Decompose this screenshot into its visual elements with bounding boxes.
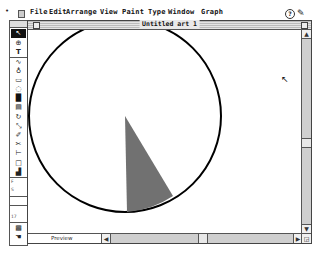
freehand-icon[interactable]: ∿ (11, 58, 26, 67)
menu-bar: • File Edit Arrange View Paint Type Wind… (0, 6, 315, 20)
document-window: Untitled art 1 ▲ ▼ Preview ◀ ▶ ◲ (27, 20, 312, 244)
horizontal-scrollbar[interactable]: ◀ ▶ (101, 234, 302, 243)
graph-tool-icon[interactable]: ▤ (11, 103, 26, 112)
toolbox: ↖ ⊕ T ∿ ♁ ▭ ◌ █ ▤ ↻ ⤡ ✐ ✂ ⊢ □ ▟ F S 17 ▩… (9, 20, 28, 246)
grow-box-icon[interactable]: ◲ (301, 233, 311, 243)
rotate-icon[interactable]: ↻ (11, 113, 26, 122)
menu-type[interactable]: Type (148, 8, 166, 16)
scale-icon[interactable]: ⤡ (11, 122, 26, 131)
selection-arrow-icon[interactable]: ↖ (11, 29, 26, 38)
mouse-cursor-icon: ↖ (281, 74, 289, 84)
zoom-box-icon[interactable] (301, 22, 308, 29)
window-title: Untitled art 1 (139, 20, 200, 29)
scroll-up-arrow-icon[interactable]: ▲ (302, 30, 311, 39)
chart-icon[interactable]: ▟ (11, 168, 26, 177)
hand-icon[interactable]: ☚ (11, 233, 26, 242)
toolbox-divider (10, 205, 27, 206)
oval-tool-icon[interactable]: ◌ (11, 85, 26, 94)
menu-edit[interactable]: Edit (49, 8, 67, 16)
bottom-bar: Preview ◀ ▶ (28, 233, 311, 243)
menu-file[interactable]: File (30, 8, 48, 16)
toolbox-divider (10, 177, 27, 178)
artboard-canvas[interactable] (28, 30, 301, 233)
close-box-icon[interactable] (33, 22, 40, 29)
menu-paint[interactable]: Paint (122, 8, 144, 16)
rectangle-tool-icon[interactable]: ▭ (11, 76, 26, 85)
scroll-left-arrow-icon[interactable]: ◀ (102, 234, 111, 243)
zoom-icon[interactable]: ⊕ (11, 39, 26, 48)
menu-view[interactable]: View (100, 8, 118, 16)
size-indicator: 17 (11, 214, 17, 219)
page-icon[interactable]: □ (11, 159, 26, 168)
menu-window[interactable]: Window (168, 8, 195, 16)
scroll-down-arrow-icon[interactable]: ▼ (302, 224, 311, 233)
pie-chart[interactable] (28, 30, 301, 233)
application-menu-icon[interactable]: ✎ (297, 8, 305, 18)
toolbox-divider (10, 222, 27, 223)
reflect-icon[interactable]: ✐ (11, 131, 26, 140)
apple-menu-icon[interactable]: • (5, 7, 9, 15)
preview-mode-label[interactable]: Preview (51, 235, 72, 241)
vertical-scrollbar[interactable]: ▲ ▼ (301, 30, 311, 233)
measure-icon[interactable]: ⊢ (11, 149, 26, 158)
toolbox-divider (10, 196, 27, 197)
help-icon[interactable]: ? (285, 9, 295, 19)
pie-outline (29, 30, 221, 212)
vertical-scroll-thumb[interactable] (302, 138, 311, 148)
blend-icon[interactable]: █ (11, 94, 26, 103)
text-tool-icon[interactable]: T (11, 48, 26, 57)
toolbox-title-bar[interactable] (10, 21, 27, 28)
paint-bucket-icon[interactable]: ▩ (11, 224, 26, 233)
menu-arrange[interactable]: Arrange (66, 8, 97, 16)
menu-graph[interactable]: Graph (201, 8, 223, 16)
fill-indicator[interactable]: F (11, 179, 14, 184)
desktop-icon (18, 10, 25, 18)
window-title-bar[interactable]: Untitled art 1 (28, 21, 311, 30)
pen-icon[interactable]: ♁ (11, 67, 26, 76)
horizontal-scroll-thumb[interactable] (198, 234, 208, 243)
scissors-icon[interactable]: ✂ (11, 140, 26, 149)
stroke-indicator[interactable]: S (11, 187, 14, 192)
